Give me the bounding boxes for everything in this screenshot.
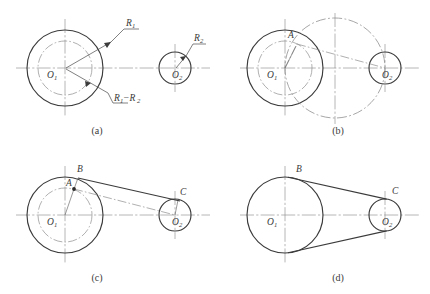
panel-a-label-r1-sub: 1	[132, 22, 135, 29]
panel-d-label-c: C	[392, 186, 399, 196]
panel-c-point-a-dot	[72, 187, 76, 191]
panel-d-label-o1: O	[267, 217, 274, 227]
panel-d-tangent-upper	[288, 177, 387, 199]
panel-d-caption: (d)	[332, 272, 344, 284]
panel-b-label-a: A	[287, 30, 294, 40]
panel-a-label-o1: O	[47, 70, 54, 80]
panel-a-arrowhead-r1	[104, 42, 111, 48]
panel-a-label-o2-sub: 2	[179, 74, 183, 81]
panel-a-caption: (a)	[91, 125, 102, 137]
panel-c-line-o2-c	[175, 200, 178, 215]
panel-c-label-o1: O	[47, 217, 54, 227]
panel-c-label-c: C	[180, 187, 187, 197]
panel-a-label-r2-sub: 2	[200, 37, 204, 44]
panel-c-caption: (c)	[91, 272, 102, 284]
panel-a-arrowhead-r2	[180, 56, 186, 61]
panel-c-label-o2-sub: 2	[179, 221, 183, 228]
panel-c-label-a: A	[65, 178, 72, 188]
panel-d-label-b: B	[296, 164, 302, 174]
panel-c-line-o1-a	[65, 189, 74, 215]
panel-d-label-o2: O	[382, 217, 389, 227]
panel-a-leader-r1r2-ext	[108, 93, 113, 103]
panel-d-tangent-lower	[288, 231, 387, 253]
panel-a-leader-r1r2	[66, 69, 108, 93]
panel-b-label-o2-sub: 2	[389, 74, 393, 81]
panel-c: A B C O 1 O 2 (c)	[16, 164, 210, 284]
figure-canvas: R 1 R 1 −R 2 R 2 O 1 O 2 (a)	[0, 0, 430, 294]
panel-b-label-o1-sub: 1	[274, 74, 277, 81]
panel-a-label-r1: R	[125, 18, 132, 28]
panel-a-leader-r1-ext	[111, 29, 124, 42]
panel-b-line-a-o2	[297, 44, 385, 68]
panel-a-label-r1r2-op: −R	[123, 93, 135, 103]
panel-b: A O 1 O 2 (b)	[240, 13, 420, 137]
panel-a-label-o2: O	[172, 70, 179, 80]
panel-c-label-o2: O	[172, 217, 179, 227]
panel-b-label-o2: O	[382, 70, 389, 80]
panel-a-leader-r1	[66, 42, 111, 68]
panel-b-ray-o1-a-solid	[285, 46, 296, 68]
technical-drawing-figure: R 1 R 1 −R 2 R 2 O 1 O 2 (a)	[0, 0, 430, 294]
panel-d-label-o2-sub: 2	[389, 221, 393, 228]
panel-a-label-r2: R	[193, 33, 200, 43]
panel-a-label-o1-sub: 1	[54, 74, 57, 81]
panel-a-label-r1r2: R	[113, 93, 120, 103]
panel-a-leader-r2-ext	[186, 44, 193, 56]
panel-a: R 1 R 1 −R 2 R 2 O 1 O 2 (a)	[16, 18, 210, 137]
panel-c-label-o1-sub: 1	[54, 221, 57, 228]
panel-b-label-o1: O	[267, 70, 274, 80]
panel-d: B C O 1 O 2 (d)	[240, 164, 420, 284]
panel-d-label-o1-sub: 1	[274, 221, 277, 228]
panel-a-label-r1r2-sub2: 2	[137, 97, 141, 104]
panel-c-label-b: B	[77, 164, 83, 174]
panel-b-caption: (b)	[332, 125, 344, 137]
